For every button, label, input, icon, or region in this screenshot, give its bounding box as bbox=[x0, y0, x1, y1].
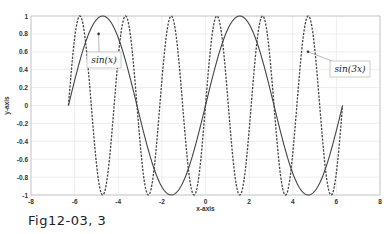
annotation-label: sin(3x) bbox=[334, 64, 366, 74]
x-tick-label: 4 bbox=[291, 198, 295, 205]
annotation-arrowhead bbox=[97, 33, 100, 36]
y-tick-label: -0.2 bbox=[17, 120, 29, 127]
x-tick-label: 6 bbox=[335, 198, 339, 205]
y-tick-label: -0.8 bbox=[17, 174, 29, 181]
x-axis-label: x-axis bbox=[196, 205, 215, 212]
x-tick-label: -8 bbox=[28, 198, 34, 205]
x-tick-label: -2 bbox=[159, 198, 165, 205]
x-tick-label: -4 bbox=[115, 198, 121, 205]
x-tick-label: 8 bbox=[378, 198, 382, 205]
figure-caption: Fig12-03, 3 bbox=[28, 213, 106, 228]
y-tick-label: -0.4 bbox=[17, 138, 29, 145]
annotation-arrow bbox=[308, 52, 332, 61]
y-tick-label: -0.6 bbox=[17, 156, 29, 163]
y-axis-label: y-axis bbox=[3, 96, 11, 115]
annotation-label: sin(x) bbox=[91, 55, 117, 65]
x-tick-label: 2 bbox=[247, 198, 251, 205]
y-tick-label: 0.4 bbox=[19, 66, 28, 73]
y-tick-label: 0 bbox=[24, 102, 28, 109]
y-tick-label: 1 bbox=[24, 13, 28, 20]
line-chart: -8-6-4-202468-1-0.8-0.6-0.4-0.200.20.40.… bbox=[0, 0, 390, 234]
y-tick-label: 0.6 bbox=[19, 48, 28, 55]
y-tick-label: 0.8 bbox=[19, 30, 28, 37]
x-tick-label: -6 bbox=[72, 198, 78, 205]
y-tick-label: 0.2 bbox=[19, 84, 28, 91]
annotation-arrowhead bbox=[307, 51, 310, 54]
y-tick-label: -1 bbox=[22, 192, 28, 199]
x-tick-label: 0 bbox=[204, 198, 208, 205]
